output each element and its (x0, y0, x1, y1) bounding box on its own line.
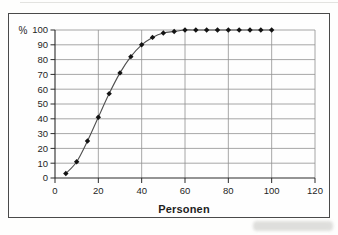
data-point-marker (171, 29, 176, 34)
data-point-marker (106, 91, 111, 96)
data-point-marker (247, 27, 252, 32)
y-tick-label: 100 (32, 24, 48, 35)
y-tick-label: 90 (37, 39, 48, 50)
y-tick-label: 30 (37, 128, 48, 139)
y-tick-label: 40 (37, 113, 48, 124)
x-tick-label: 0 (52, 185, 57, 196)
tick-labels: 0102030405060708090100020406080100120 (32, 24, 323, 196)
y-tick-label: 0 (43, 172, 48, 183)
scan-artifact-smudge (253, 221, 333, 231)
data-point-marker (204, 27, 209, 32)
axes (51, 30, 316, 183)
data-point-marker (226, 27, 231, 32)
data-point-marker (236, 27, 241, 32)
x-axis-title: Personen (158, 203, 210, 215)
y-tick-label: 10 (37, 158, 48, 169)
scan-artifact-top (20, 2, 338, 3)
data-point-marker (182, 27, 187, 32)
series-line (66, 30, 272, 174)
data-series (63, 27, 274, 176)
y-axis-unit-label: % (19, 25, 28, 36)
data-point-marker (269, 27, 274, 32)
y-tick-label: 80 (37, 54, 48, 65)
data-point-marker (96, 115, 101, 120)
cumulative-percent-line-chart: 0102030405060708090100020406080100120 % … (9, 14, 329, 217)
x-tick-label: 40 (136, 185, 147, 196)
x-tick-label: 120 (307, 185, 323, 196)
data-point-marker (117, 70, 122, 75)
data-point-marker (258, 27, 263, 32)
y-tick-label: 20 (37, 143, 48, 154)
data-point-marker (161, 30, 166, 35)
data-point-marker (150, 35, 155, 40)
data-point-marker (85, 138, 90, 143)
x-tick-label: 100 (264, 185, 280, 196)
data-point-marker (215, 27, 220, 32)
y-tick-label: 50 (37, 98, 48, 109)
x-tick-label: 60 (180, 185, 191, 196)
y-tick-label: 70 (37, 69, 48, 80)
data-point-marker (193, 27, 198, 32)
gridlines (55, 30, 315, 178)
x-tick-label: 20 (93, 185, 104, 196)
x-tick-label: 80 (223, 185, 234, 196)
chart-frame: 0102030405060708090100020406080100120 % … (8, 13, 330, 218)
scanned-chart-page: 0102030405060708090100020406080100120 % … (0, 0, 338, 235)
y-tick-label: 60 (37, 84, 48, 95)
